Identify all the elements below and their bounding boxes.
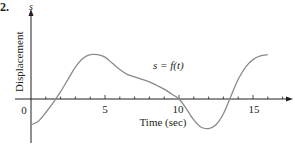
x-axis-arrow-icon	[286, 97, 293, 102]
y-axis-label: Displacement	[13, 32, 25, 92]
x-tick-label: 15	[249, 103, 261, 115]
chart-canvas: 2. s Displacement 0 5 10 15 Time (sec) s…	[0, 0, 295, 145]
curve-label: s = f(t)	[153, 59, 184, 72]
x-axis-ticks	[46, 95, 283, 99]
x-tick-label: 0	[21, 104, 27, 116]
y-axis-symbol: s	[29, 1, 33, 12]
problem-number: 2.	[0, 0, 9, 14]
x-tick-label: 10	[173, 103, 185, 115]
x-tick-labels: 0 5 10 15	[21, 103, 260, 116]
x-axis-label: Time (sec)	[140, 116, 187, 129]
x-tick-label: 5	[102, 103, 108, 115]
